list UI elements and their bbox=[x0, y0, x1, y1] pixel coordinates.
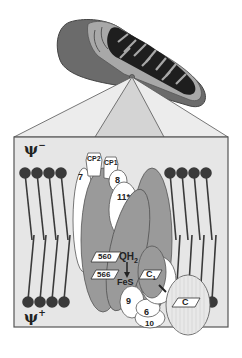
label-fes: FeS bbox=[117, 277, 134, 287]
psi-minus-label: ψ− bbox=[24, 140, 46, 158]
label-subunit-9: 9 bbox=[126, 296, 131, 306]
label-cp2: CP2 bbox=[87, 155, 101, 162]
label-subunit-10: 10 bbox=[145, 319, 154, 328]
label-subunit-8: 8 bbox=[115, 175, 120, 185]
label-subunit-7: 7 bbox=[78, 172, 83, 182]
label-subunit-6: 6 bbox=[144, 307, 149, 317]
label-qh2: QH2 bbox=[119, 251, 138, 264]
psi-plus-label: ψ+ bbox=[24, 308, 46, 326]
label-heme-b566: 566 bbox=[97, 270, 110, 279]
label-cytochrome-c: C bbox=[182, 297, 189, 307]
label-heme-b560: 560 bbox=[98, 252, 111, 261]
label-cp1: CP1 bbox=[104, 159, 118, 166]
label-subunit-11: 11* bbox=[117, 192, 130, 202]
label-cytochrome-c1: C1 bbox=[146, 269, 156, 281]
